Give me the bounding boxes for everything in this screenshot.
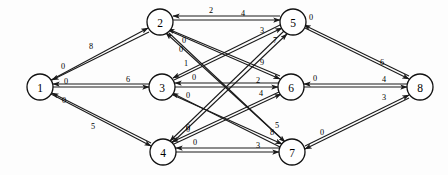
edge-weight-label: 0 — [186, 125, 190, 134]
edge-weight-label: 0 — [193, 138, 197, 147]
node-label: 7 — [289, 147, 295, 159]
graph-edge — [172, 93, 280, 147]
edge-weight-label: 3 — [260, 26, 264, 35]
network-graph: 12345678 806050422030317090408050604030 — [0, 0, 448, 175]
edge-weight-label: 5 — [275, 121, 279, 130]
edge-weight-label: 2 — [256, 76, 260, 85]
graph-node-7[interactable]: 7 — [279, 139, 305, 165]
edge-weight-label: 3 — [256, 141, 260, 150]
node-label: 6 — [288, 82, 294, 94]
edge-weight-label: 0 — [64, 77, 68, 86]
graph-edge — [172, 92, 279, 142]
graph-edge — [305, 28, 409, 79]
edge-weight-label: 0 — [320, 128, 324, 137]
graph-node-3[interactable]: 3 — [149, 74, 175, 100]
graph-edge — [305, 95, 409, 146]
edge-weight-label: 0 — [186, 91, 190, 100]
node-label: 1 — [37, 82, 43, 94]
edge-weight-label: 6 — [380, 58, 384, 67]
edge-weight-label: 7 — [273, 36, 277, 45]
network-diagram-canvas: 12345678 806050422030317090408050604030 — [0, 0, 448, 175]
edge-weight-label: 8 — [89, 42, 93, 51]
node-label: 5 — [290, 17, 296, 29]
edge-weight-label: 0 — [179, 45, 183, 54]
graph-node-4[interactable]: 4 — [150, 139, 176, 165]
edge-weight-label: 4 — [259, 89, 263, 98]
edge-weight-label: 4 — [241, 9, 245, 18]
edge-label-layer: 806050422030317090408050604030 — [61, 6, 386, 150]
node-label: 8 — [417, 82, 423, 94]
graph-node-6[interactable]: 6 — [278, 74, 304, 100]
node-label: 2 — [157, 17, 163, 29]
graph-edge — [305, 98, 409, 149]
edge-weight-label: 6 — [126, 75, 130, 84]
graph-node-8[interactable]: 8 — [407, 74, 433, 100]
edge-weight-label: 0 — [309, 13, 313, 22]
edge-weight-label: 2 — [209, 6, 213, 15]
edge-weight-label: 8 — [270, 128, 274, 137]
edge-weight-label: 5 — [91, 122, 95, 131]
edge-weight-label: 4 — [382, 75, 386, 84]
edge-weight-label: 1 — [184, 59, 188, 68]
graph-edge — [52, 32, 149, 80]
edge-weight-label: 0 — [182, 36, 186, 45]
edge-weight-label: 3 — [382, 93, 386, 102]
edge-weight-label: 0 — [62, 96, 66, 105]
edge-weight-label: 0 — [192, 73, 196, 82]
node-label: 4 — [160, 147, 166, 159]
graph-edge — [51, 28, 148, 80]
edge-weight-label: 0 — [313, 74, 317, 83]
graph-edge — [304, 25, 409, 76]
graph-node-2[interactable]: 2 — [147, 9, 173, 35]
node-label: 3 — [159, 82, 165, 94]
graph-node-5[interactable]: 5 — [280, 9, 306, 35]
graph-edge — [52, 93, 151, 143]
edge-layer — [51, 16, 409, 152]
graph-node-1[interactable]: 1 — [27, 74, 53, 100]
edge-weight-label: 0 — [61, 62, 65, 71]
edge-weight-label: 9 — [260, 58, 264, 67]
